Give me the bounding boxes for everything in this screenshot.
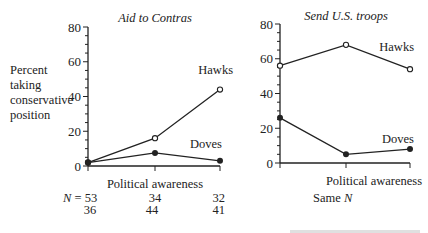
y-tick-label: 20 bbox=[260, 121, 273, 136]
cutoff-caption bbox=[290, 230, 420, 233]
y-label-line: Percent bbox=[10, 63, 73, 78]
y-tick-label: 0 bbox=[267, 156, 274, 171]
y-label-line: conservative bbox=[10, 93, 73, 108]
filled-circle-marker bbox=[277, 115, 283, 121]
y-label-line: taking bbox=[10, 78, 73, 93]
filled-circle-marker bbox=[343, 151, 349, 157]
y-tick-label: 0 bbox=[75, 159, 82, 174]
chart-title: Aid to Contras bbox=[117, 11, 192, 25]
y-tick-label: 60 bbox=[260, 51, 273, 66]
x-axis-label: Political awareness bbox=[107, 177, 203, 191]
n-value: 44 bbox=[146, 203, 159, 217]
open-circle-marker bbox=[152, 136, 157, 141]
same-n-note: Same N bbox=[313, 191, 353, 205]
open-circle-marker bbox=[277, 63, 282, 68]
n-value: 36 bbox=[84, 203, 97, 217]
filled-circle-marker bbox=[85, 160, 91, 166]
y-tick-label: 80 bbox=[68, 20, 81, 35]
doves-label: Doves bbox=[190, 137, 222, 151]
open-circle-marker bbox=[407, 67, 412, 72]
hawks-label: Hawks bbox=[379, 40, 414, 54]
open-circle-marker bbox=[217, 87, 222, 92]
chart-title: Send U.S. troops bbox=[304, 9, 388, 23]
filled-circle-marker bbox=[217, 158, 223, 164]
y-label-line: position bbox=[10, 108, 73, 123]
y-tick-label: 20 bbox=[68, 124, 81, 139]
y-tick-label: 40 bbox=[260, 86, 273, 101]
hawks-label: Hawks bbox=[198, 63, 233, 77]
open-circle-marker bbox=[343, 42, 348, 47]
n-value: 41 bbox=[213, 203, 226, 217]
y-tick-label: 80 bbox=[260, 17, 273, 32]
filled-circle-marker bbox=[407, 146, 413, 152]
x-axis-label: Political awareness bbox=[326, 174, 422, 188]
y-axis-label: Percent taking conservative position bbox=[10, 63, 73, 123]
filled-circle-marker bbox=[152, 150, 158, 156]
doves-label: Doves bbox=[382, 132, 414, 146]
